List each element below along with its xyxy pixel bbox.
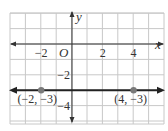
y-tick-label: −4 xyxy=(57,99,70,113)
x-axis-label: x xyxy=(154,37,161,52)
y-axis-up-arrow-icon xyxy=(70,11,75,17)
y-axis-label: y xyxy=(74,9,82,24)
point-label: (−2, −3) xyxy=(17,92,57,106)
coordinate-plane-chart: x y O −224−2−4 (−2, −3)(4, −3) xyxy=(0,0,168,131)
x-tick-label: 2 xyxy=(100,46,106,60)
x-tick-label: 4 xyxy=(131,46,137,60)
point-labels: (−2, −3)(4, −3) xyxy=(17,92,147,106)
origin-label: O xyxy=(59,45,69,60)
grid-lines xyxy=(10,13,164,124)
point-label: (4, −3) xyxy=(114,92,147,106)
y-axis-down-arrow-icon xyxy=(70,117,75,123)
x-tick-label: −2 xyxy=(35,46,48,60)
x-axis-left-arrow-icon xyxy=(10,42,16,47)
y-tick-label: −2 xyxy=(57,68,70,82)
